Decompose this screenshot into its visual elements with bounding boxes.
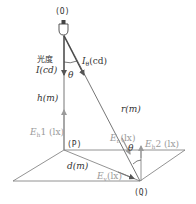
intensity-theta-label: Iθ(cd) [82, 56, 107, 69]
point-p-label: (P) [67, 140, 81, 150]
illuminance-diagram: (O) 光度 I(cd) Iθ(cd) θ h(m) r(m) Eh1 (lx)… [0, 0, 196, 204]
intensity-theta-arrow [64, 36, 84, 75]
illum-h1-label: Eh1 (lx) [30, 127, 64, 140]
distance-r-label: r(m) [121, 104, 141, 114]
illum-h2-label: Eh2 (lx) [145, 139, 179, 152]
point-q-label: (Q) [134, 188, 148, 198]
illum-v-label: Ev(lx) [97, 171, 122, 184]
height-label: h(m) [37, 93, 58, 103]
angle-arc-top [64, 61, 77, 63]
luminous-intensity-jp-label: 光度 [37, 55, 53, 65]
luminous-intensity-label: I(cd) [36, 65, 57, 75]
point-o-label: (O) [55, 7, 69, 17]
angle-arc-bottom [133, 160, 141, 164]
distance-d-label: d(m) [67, 161, 88, 171]
angle-theta-bottom: θ [128, 143, 133, 153]
angle-theta-top: θ [68, 70, 73, 80]
lamp-icon [59, 20, 68, 35]
